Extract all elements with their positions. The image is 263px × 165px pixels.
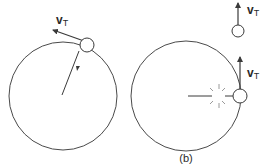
left-panel: vT <box>9 13 117 150</box>
released-ball <box>232 25 244 37</box>
radius-string <box>62 51 79 95</box>
circular-path <box>131 41 241 151</box>
tangential-velocity-arrow <box>53 30 84 41</box>
circular-path <box>9 42 117 150</box>
velocity-label: vT <box>247 66 260 81</box>
panel-caption: (b) <box>179 152 192 164</box>
ball <box>80 38 94 52</box>
centripetal-arrowhead-icon <box>76 66 80 71</box>
circular-motion-diagram: vT vT vT (b) <box>0 0 263 165</box>
right-panel: vT vT (b) <box>131 3 260 164</box>
ball <box>233 89 247 103</box>
velocity-label: vT <box>56 13 69 28</box>
released-velocity-label: vT <box>247 3 260 18</box>
string-break-spark-icon <box>208 84 225 108</box>
